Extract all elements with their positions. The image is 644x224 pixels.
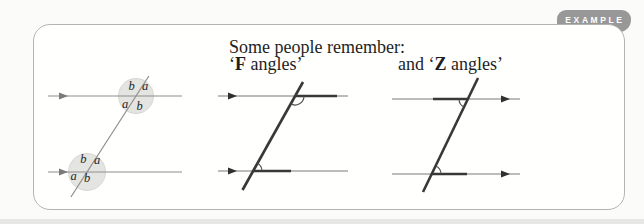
z-angles-diagram <box>392 78 520 192</box>
geometry-diagrams: b a a b b a a b <box>0 0 644 224</box>
angle-label-bottom-above-left: b <box>80 152 86 166</box>
top-line-arrow-icon <box>59 92 68 99</box>
angle-label-top-below-right: b <box>136 99 142 113</box>
angle-label-top-above-left: b <box>128 79 134 93</box>
transversal-line <box>243 82 304 190</box>
transversal-line <box>71 76 149 197</box>
angle-label-bottom-below-left: a <box>70 169 76 183</box>
labelled-angles-diagram: b a a b b a a b <box>48 76 182 197</box>
angle-label-bottom-below-right: b <box>84 171 90 185</box>
angle-label-top-above-right: a <box>142 79 148 93</box>
textbook-example-panel: EXAMPLE Some people remember: ‘F angles’… <box>0 0 644 224</box>
angle-label-bottom-above-right: a <box>94 153 100 167</box>
bottom-line-arrow-icon <box>228 167 237 174</box>
bottom-line-arrow-icon <box>59 168 68 175</box>
top-line-arrow-icon <box>228 92 237 99</box>
bottom-line-arrow-icon <box>501 170 510 177</box>
angle-label-top-below-left: a <box>122 97 128 111</box>
top-line-arrow-icon <box>501 95 510 102</box>
f-angles-diagram <box>218 82 348 190</box>
